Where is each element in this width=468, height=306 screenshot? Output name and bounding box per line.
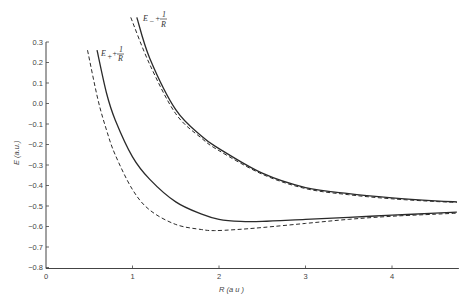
eminus-curve-label: E − + 1 R (142, 10, 167, 29)
y-tick-label: 0.3 (33, 38, 43, 47)
svg-text:1: 1 (162, 10, 166, 19)
y-tick-label: −0.5 (28, 202, 43, 211)
y-tick-label: −0.3 (28, 161, 43, 170)
series-line-1 (88, 50, 457, 230)
svg-text:R: R (117, 54, 123, 63)
svg-text:+: + (155, 14, 160, 23)
y-tick-label: −0.1 (28, 120, 43, 129)
series-line-2 (137, 17, 457, 202)
y-tick-label: −0.4 (28, 181, 43, 190)
svg-text:1: 1 (119, 45, 123, 54)
y-axis-title: E (a.u.) (12, 140, 21, 165)
y-tick-label: −0.7 (28, 243, 43, 252)
eplus-curve-label: E + + 1 R (100, 45, 124, 63)
svg-text:E: E (142, 14, 148, 23)
series-line-0 (97, 50, 457, 221)
series-line-3 (131, 17, 457, 202)
x-tick-label: 0 (44, 272, 48, 281)
x-tick-label: 1 (130, 272, 134, 281)
plot-curves (88, 17, 457, 230)
svg-text:R: R (160, 20, 166, 29)
y-tick-label: 0.1 (33, 79, 43, 88)
x-tick-label: 2 (217, 272, 221, 281)
x-tick-label: 4 (390, 272, 394, 281)
y-tick-label: 0.2 (33, 58, 43, 67)
svg-text:+: + (112, 49, 117, 58)
y-tick-label: −0.8 (28, 263, 43, 272)
x-tick-label: 3 (303, 272, 307, 281)
x-axis-title: R (a u ) (219, 285, 245, 294)
y-tick-label: 0.0 (33, 99, 43, 108)
axes: 0.30.20.10.0−0.1−0.2−0.3−0.4−0.5−0.6−0.7… (28, 38, 459, 281)
svg-text:−: − (149, 17, 154, 26)
chart-canvas: 0.30.20.10.0−0.1−0.2−0.3−0.4−0.5−0.6−0.7… (0, 0, 468, 306)
svg-text:E: E (100, 49, 106, 58)
y-tick-label: −0.2 (28, 140, 43, 149)
y-tick-label: −0.6 (28, 222, 43, 231)
